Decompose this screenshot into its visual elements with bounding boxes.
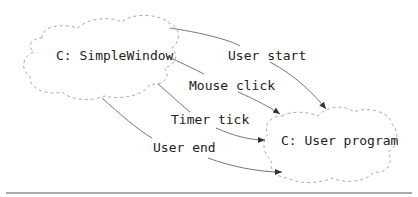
edge-user-end-tail <box>208 158 282 172</box>
diagram-canvas: C: SimpleWindow C: User program User sta… <box>0 0 418 197</box>
edge-label-user-end: User end <box>153 140 216 155</box>
edge-label-timer-tick: Timer tick <box>171 112 249 127</box>
node-label-userprogram: C: User program <box>281 133 398 148</box>
edge-timer-tick-tail <box>216 128 265 140</box>
diagram-graphics <box>0 0 418 197</box>
edge-label-mouse-click: Mouse click <box>189 78 275 93</box>
edge-user-start-tail <box>270 62 326 109</box>
edge-timer-tick <box>158 84 190 112</box>
edge-mouse-click-tail <box>238 92 280 114</box>
node-label-simplewindow: C: SimpleWindow <box>56 48 173 63</box>
edge-label-user-start: User start <box>228 48 306 63</box>
edge-user-start <box>170 28 240 46</box>
edge-user-end <box>102 98 152 138</box>
